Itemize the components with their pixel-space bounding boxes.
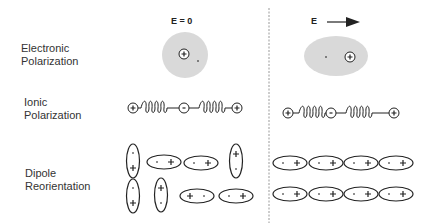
atom-no-field [162, 32, 208, 78]
diagram-canvas [0, 0, 428, 223]
field-arrow-icon [327, 17, 360, 27]
atom-field [304, 36, 368, 76]
ionic-chain-field [283, 106, 399, 118]
dipoles-no-field [127, 144, 254, 213]
ionic-chain-no-field [128, 101, 242, 113]
dipoles-field [273, 156, 413, 201]
